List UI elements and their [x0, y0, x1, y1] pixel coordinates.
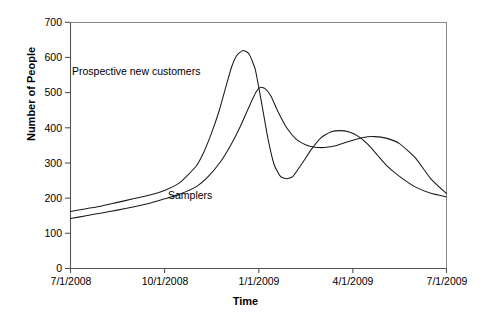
y-tick-label-100: 100 [26, 228, 62, 238]
x-axis-title: Time [0, 295, 491, 307]
y-axis-ticks [65, 22, 70, 268]
y-tick-label-0: 0 [26, 263, 62, 273]
y-tick-label-200: 200 [26, 193, 62, 203]
axes-group [70, 22, 447, 269]
y-tick-label-300: 300 [26, 158, 62, 168]
y-tick-label-500: 500 [26, 87, 62, 97]
x-tick-label-1: 7/1/2008 [26, 276, 116, 287]
series-line-samplers [71, 87, 447, 218]
y-tick-label-400: 400 [26, 123, 62, 133]
x-tick-label-4: 4/1/2009 [308, 276, 398, 287]
series-annotation-prospective-new-customers: Prospective new customers [72, 65, 200, 77]
x-tick-label-5: 7/1/2009 [402, 276, 491, 287]
x-tick-label-2: 10/1/2008 [120, 276, 210, 287]
series-annotation-samplers: Samplers [168, 189, 212, 201]
x-tick-label-3: 1/1/2009 [214, 276, 304, 287]
y-tick-label-700: 700 [26, 17, 62, 27]
y-tick-label-600: 600 [26, 52, 62, 62]
line-chart: Number of People Time 700 600 500 400 30… [0, 0, 491, 326]
